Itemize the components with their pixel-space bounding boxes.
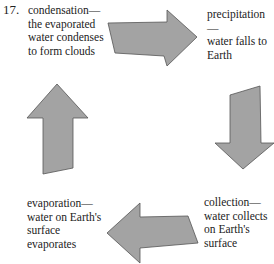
arrow-left-icon (107, 203, 198, 263)
arrow-right-icon (108, 10, 197, 66)
arrow-up-icon (27, 84, 88, 174)
cycle-arrows (0, 0, 274, 264)
arrow-down-icon (215, 86, 274, 169)
